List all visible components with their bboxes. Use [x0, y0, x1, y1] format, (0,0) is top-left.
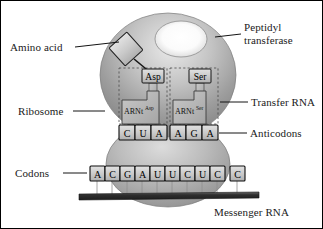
- codon-letter: U: [154, 169, 162, 180]
- codon-letter: C: [184, 169, 191, 180]
- peptidyl-transferase-site: [155, 21, 207, 57]
- codon-letter: A: [94, 169, 102, 180]
- codon-letter: A: [139, 169, 147, 180]
- trna-asp-body-label: ARNt: [124, 107, 144, 116]
- label-peptidyl-transferase-line2: transferase: [244, 34, 293, 46]
- anticodon-box: A: [202, 125, 218, 140]
- codon-letter: C: [109, 169, 116, 180]
- label-transfer-rna: Transfer RNA: [251, 96, 315, 108]
- anticodon-letter: A: [155, 128, 163, 139]
- label-peptidyl-transferase-line1: Peptidyl: [244, 21, 281, 33]
- label-anticodons: Anticodons: [250, 127, 302, 139]
- anticodon-letter: A: [174, 128, 182, 139]
- codon-box: U: [195, 166, 210, 181]
- codon-box: A: [135, 166, 150, 181]
- messenger-rna-strand: [79, 192, 259, 200]
- label-amino-acid: Amino acid: [10, 41, 63, 53]
- trna-ser-body-label: ARNt: [175, 107, 195, 116]
- anticodon-box: C: [119, 125, 135, 140]
- anticodon-letter: G: [190, 128, 197, 139]
- anticodon-letter: A: [206, 128, 214, 139]
- trna-asp-aminoacid-box: Asp: [142, 69, 164, 83]
- anticodon-letter: U: [139, 128, 147, 139]
- codon-letter: C: [214, 169, 221, 180]
- label-codons: Codons: [15, 167, 49, 179]
- codon-box: C: [210, 166, 225, 181]
- anticodon-letter: C: [124, 128, 131, 139]
- codon-letter: C: [234, 169, 241, 180]
- label-messenger-rna: Messenger RNA: [214, 206, 289, 218]
- codon-box: G: [120, 166, 135, 181]
- trna-ser-aminoacid-box: Ser: [189, 69, 211, 83]
- trna-ser-body-superscript: Ser: [196, 105, 204, 111]
- label-ribosome: Ribosome: [18, 105, 63, 117]
- translation-diagram: Asp ARNt Asp Ser ARNt Ser C: [0, 0, 323, 229]
- codon-letter: G: [124, 169, 131, 180]
- codon-letter: U: [169, 169, 177, 180]
- anticodon-box: A: [170, 125, 186, 140]
- codon-box: U: [165, 166, 180, 181]
- anticodon-box: A: [151, 125, 167, 140]
- codon-box: C: [230, 166, 245, 181]
- trna-ser-aminoacid-label: Ser: [194, 72, 208, 82]
- codon-letter: U: [199, 169, 207, 180]
- trna-asp-body-superscript: Asp: [145, 105, 154, 111]
- codon-box: U: [150, 166, 165, 181]
- codon-box: C: [180, 166, 195, 181]
- anticodon-box: U: [135, 125, 151, 140]
- anticodon-box: G: [186, 125, 202, 140]
- codon-box: C: [105, 166, 120, 181]
- trna-asp-aminoacid-label: Asp: [145, 72, 161, 82]
- codon-box: A: [90, 166, 105, 181]
